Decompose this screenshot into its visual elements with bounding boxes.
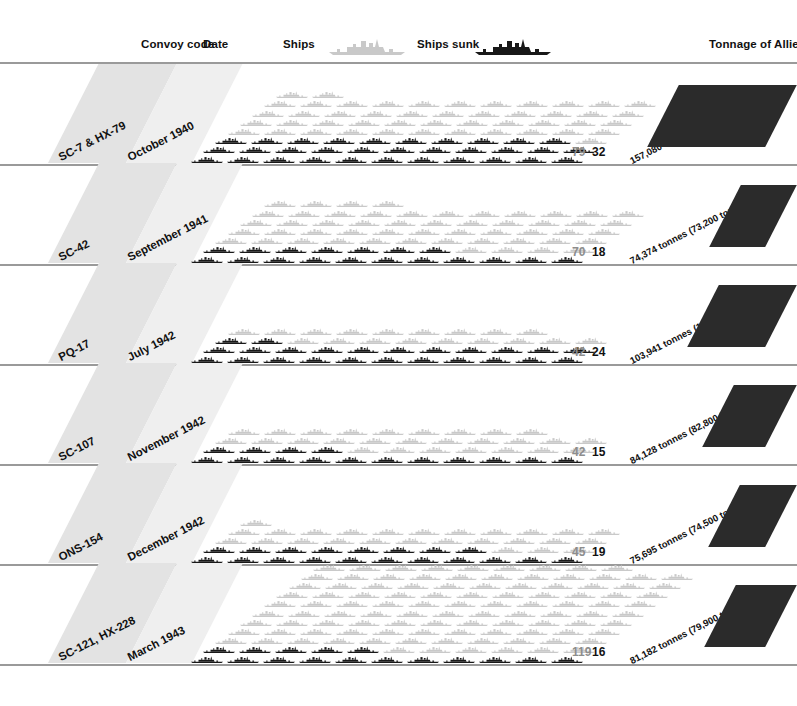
ship-icon (443, 521, 477, 539)
ship-icon (467, 203, 501, 221)
fleet-pictogram (190, 163, 570, 263)
ships-count: 70 (572, 245, 585, 259)
ship-icon (456, 557, 490, 575)
header-divider (0, 62, 797, 64)
tonnage-bar (687, 285, 797, 347)
header-tonnage: Tonnage of Allied ships s (709, 38, 797, 50)
ships-sunk-count: 18 (592, 245, 605, 259)
legend-ship-sunk-icon (473, 36, 553, 60)
convoy-row: ONS-154December 1942451975,695 tonnes (7… (0, 463, 797, 569)
ship-icon (407, 321, 441, 339)
ship-icon (587, 94, 621, 112)
fleet-pictogram (190, 263, 570, 363)
ship-icon (239, 512, 273, 530)
ship-icon (407, 521, 441, 539)
ship-icon (564, 557, 598, 575)
ship-icon (479, 321, 513, 339)
ship-icon (515, 421, 549, 439)
ship-icon (492, 557, 526, 575)
ship-icon (611, 203, 645, 221)
ship-icon (479, 421, 513, 439)
ships-count: 42 (572, 345, 585, 359)
ship-icon (479, 521, 513, 539)
convoy-row: SC-107November 1942421584,128 tonnes (82… (0, 363, 797, 469)
ship-icon (515, 94, 549, 112)
ship-icon (431, 203, 465, 221)
header-date: Date (203, 38, 228, 50)
ships-sunk-count: 24 (592, 345, 605, 359)
ship-icon (660, 566, 694, 584)
ship-icon (371, 521, 405, 539)
ship-icon (299, 194, 333, 212)
ships-count: 42 (572, 445, 585, 459)
ship-icon (600, 557, 634, 575)
ship-icon (299, 521, 333, 539)
ship-icon (311, 85, 345, 103)
legend-ship-alive-icon (327, 36, 407, 60)
ship-icon (551, 94, 585, 112)
ship-icon (335, 421, 369, 439)
row-divider (0, 664, 797, 666)
chart-header: Convoy code Date Ships Ships sunk (0, 38, 797, 64)
ship-icon (263, 321, 297, 339)
ship-icon (443, 94, 477, 112)
infographic-canvas: Convoy code Date Ships Ships sunk (0, 0, 797, 706)
ship-icon (528, 557, 562, 575)
ship-icon (263, 421, 297, 439)
fleet-pictogram (190, 63, 570, 163)
ship-icon (335, 521, 369, 539)
ship-icon (335, 194, 369, 212)
ship-icon (227, 421, 261, 439)
fleet-pictogram (190, 563, 570, 663)
ship-icon (551, 521, 585, 539)
ship-icon (299, 421, 333, 439)
ship-icon (515, 521, 549, 539)
ship-icon (407, 94, 441, 112)
ship-icon (348, 557, 382, 575)
ship-icon (420, 557, 454, 575)
fleet-pictogram (190, 363, 570, 463)
ship-icon (371, 94, 405, 112)
ship-icon (503, 203, 537, 221)
ship-icon (587, 521, 621, 539)
ship-icon (443, 421, 477, 439)
header-ships-sunk: Ships sunk (417, 38, 479, 50)
convoy-row: SC-7 & HX-79October 19407932157,080 tonn… (0, 63, 797, 169)
ship-icon (263, 194, 297, 212)
ship-icon (539, 203, 573, 221)
ship-icon (407, 421, 441, 439)
ships-count: 79 (572, 145, 585, 159)
ships-sunk-count: 16 (592, 645, 605, 659)
convoy-row: SC-42September 1941701874,374 tonnes (73… (0, 163, 797, 269)
ships-count: 119 (572, 645, 591, 659)
ship-icon (479, 94, 513, 112)
ship-icon (443, 321, 477, 339)
ship-icon (299, 321, 333, 339)
ship-icon (623, 94, 657, 112)
ship-icon (312, 557, 346, 575)
ship-icon (371, 321, 405, 339)
ships-sunk-count: 32 (592, 145, 605, 159)
ship-icon (515, 321, 549, 339)
convoy-row: PQ-17July 19424224103,941 tonnes (102,30… (0, 263, 797, 369)
ship-icon (371, 421, 405, 439)
ships-sunk-count: 15 (592, 445, 605, 459)
ship-icon (371, 194, 405, 212)
ship-icon (335, 321, 369, 339)
convoy-row: SC-121, HX-228March 19431191681,182 tonn… (0, 563, 797, 669)
ship-icon (384, 557, 418, 575)
ship-icon (227, 321, 261, 339)
tonnage-bar (647, 85, 797, 147)
ship-icon (575, 203, 609, 221)
ship-icon (275, 85, 309, 103)
fleet-pictogram (190, 463, 570, 563)
header-ships: Ships (283, 38, 315, 50)
